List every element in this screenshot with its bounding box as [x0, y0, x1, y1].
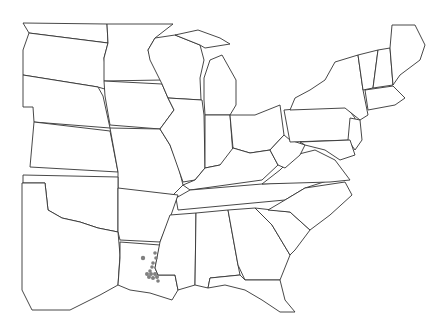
state-florida	[208, 275, 295, 312]
state-kansas	[30, 122, 118, 172]
occurrence-dot	[153, 251, 157, 255]
eastern-us-map	[0, 0, 448, 334]
state-boundaries	[22, 23, 425, 312]
state-pennsylvania	[284, 105, 355, 142]
occurrence-dot	[156, 279, 160, 283]
state-maine	[390, 25, 425, 85]
occurrence-dot	[155, 275, 159, 279]
occurrence-dot	[150, 265, 154, 269]
occurrence-dot	[141, 256, 145, 260]
state-michigan	[204, 55, 236, 115]
occurrence-dot	[147, 275, 151, 279]
state-massachusetts	[365, 86, 405, 110]
occurrence-dot	[154, 256, 158, 260]
occurrence-dot	[151, 261, 155, 265]
occurrence-dot	[151, 276, 155, 280]
